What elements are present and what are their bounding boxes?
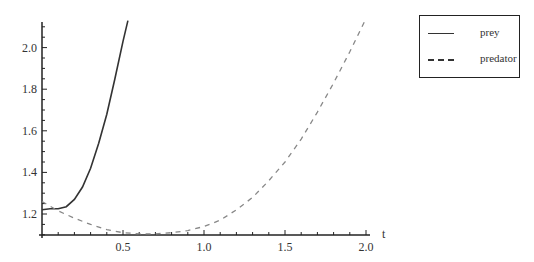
x-tick-label: 2.0 bbox=[359, 240, 374, 254]
legend-item-predator: predator bbox=[420, 50, 519, 70]
legend-item-prey: prey bbox=[420, 24, 519, 44]
solid-line-icon bbox=[428, 33, 454, 34]
series-prey bbox=[42, 21, 128, 210]
dashed-line-icon bbox=[428, 59, 454, 61]
y-tick-label: 2.0 bbox=[22, 41, 37, 55]
legend-label-predator: predator bbox=[480, 52, 517, 64]
series-predator bbox=[42, 19, 366, 234]
x-tick-label: 1.0 bbox=[197, 240, 212, 254]
x-tick-label: 0.5 bbox=[116, 240, 131, 254]
y-tick-label: 1.8 bbox=[22, 82, 37, 96]
y-tick-label: 1.6 bbox=[22, 124, 37, 138]
x-axis-label: t bbox=[382, 227, 386, 241]
legend-label-prey: prey bbox=[480, 26, 500, 38]
y-tick-label: 1.4 bbox=[22, 165, 37, 179]
y-tick-label: 1.2 bbox=[22, 207, 37, 221]
x-tick-label: 1.5 bbox=[278, 240, 293, 254]
legend: prey predator bbox=[419, 15, 520, 78]
